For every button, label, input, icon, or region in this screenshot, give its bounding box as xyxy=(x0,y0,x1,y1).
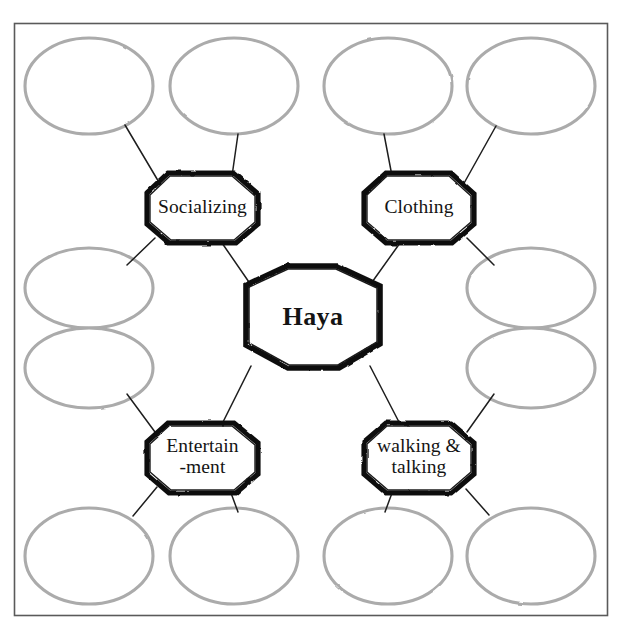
branch-node-entertainment[interactable] xyxy=(147,423,258,493)
connector-entertainment-bubble9 xyxy=(133,487,157,516)
connector-center-socializing xyxy=(222,243,251,285)
connector-clothing-bubble4 xyxy=(463,126,496,185)
blank-bubble-12[interactable] xyxy=(467,508,595,604)
blank-bubble-3[interactable] xyxy=(324,38,452,134)
connector-socializing-bubble2 xyxy=(232,134,238,176)
blank-bubble-6[interactable] xyxy=(467,248,595,328)
connector-socializing-bubble5 xyxy=(127,238,155,265)
blank-bubble-5[interactable] xyxy=(25,248,153,328)
connector-clothing-bubble6 xyxy=(467,238,494,265)
connector-center-clothing xyxy=(370,243,400,285)
concept-map-svg xyxy=(0,0,622,627)
blank-bubble-11[interactable] xyxy=(324,508,452,604)
blank-bubble-9[interactable] xyxy=(25,508,153,604)
connector-entertainment-bubble7 xyxy=(127,394,155,432)
blank-bubble-7[interactable] xyxy=(25,328,153,408)
concept-map-canvas: Haya Socializing Clothing Entertain -men… xyxy=(0,0,622,627)
connector-center-walkingtalking xyxy=(370,366,400,424)
octagon-nodes-group xyxy=(147,173,474,493)
connector-walkingtalking-bubble12 xyxy=(466,489,489,515)
connector-walkingtalking-bubble8 xyxy=(467,394,494,432)
connector-socializing-bubble1 xyxy=(125,125,160,184)
blank-bubble-2[interactable] xyxy=(170,38,298,134)
connector-clothing-bubble3 xyxy=(384,134,392,176)
connector-center-entertainment xyxy=(222,366,251,424)
center-node-haya[interactable] xyxy=(246,266,380,368)
blank-bubble-1[interactable] xyxy=(25,38,153,134)
blank-bubble-4[interactable] xyxy=(467,38,595,134)
blank-bubble-8[interactable] xyxy=(467,328,595,408)
branch-node-clothing[interactable] xyxy=(364,173,474,243)
branch-node-socializing[interactable] xyxy=(147,173,258,243)
blank-bubble-10[interactable] xyxy=(170,508,298,604)
branch-node-walking-talking[interactable] xyxy=(364,423,474,493)
